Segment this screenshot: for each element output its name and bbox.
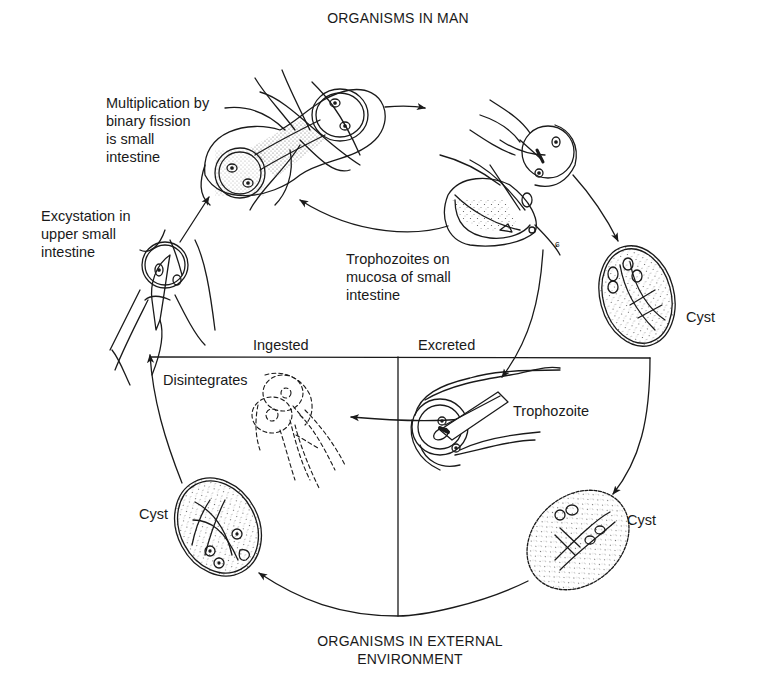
cyst-in-man	[588, 237, 686, 355]
heading-organisms-in-external-environment: ORGANISMS IN EXTERNAL ENVIRONMENT	[280, 632, 540, 668]
label-trophozoite-external: Trophozoite	[513, 402, 589, 420]
label-trophozoites-on-mucosa: Trophozoites on mucosa of small intestin…	[346, 250, 451, 304]
label-cyst-upper-right: Cyst	[686, 308, 715, 326]
cyst-external-left	[158, 463, 278, 592]
binary-fission-organism	[201, 70, 385, 210]
label-disintegrates: Disintegrates	[163, 371, 248, 389]
mucosa-trophozoites: ɕ	[440, 100, 576, 255]
heading-organisms-in-man: ORGANISMS IN MAN	[313, 9, 483, 27]
label-excreted: Excreted	[418, 336, 475, 354]
label-cyst-lower-left: Cyst	[139, 505, 168, 523]
label-ingested: Ingested	[253, 336, 309, 354]
svg-text:ɕ: ɕ	[555, 239, 560, 249]
cyst-external-right	[507, 470, 649, 610]
label-multiplication-binary-fission: Multiplication by binary fission is smal…	[106, 94, 209, 166]
giardia-life-cycle-diagram: ɕ	[0, 0, 758, 697]
disintegrating-organism	[252, 373, 345, 490]
label-excystation: Excystation in upper small intestine	[41, 207, 130, 261]
label-cyst-lower-right: Cyst	[627, 511, 656, 529]
